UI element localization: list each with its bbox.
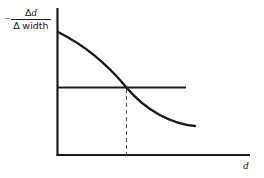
x-axis-label: d [243,160,249,171]
numerator-variable: d [32,7,37,18]
y-axis-label-numerator: Δd [23,7,39,19]
y-axis-label-fraction: Δd Δ width [11,7,50,31]
y-axis-label: − Δd Δ width [4,7,51,31]
y-axis-label-minus-sign: − [4,13,10,25]
y-axis-label-denominator: Δ width [11,20,50,31]
denominator-variable: width [22,20,48,31]
chart-figure: − Δd Δ width d [0,0,264,178]
denominator-delta-symbol: Δ [13,20,20,31]
